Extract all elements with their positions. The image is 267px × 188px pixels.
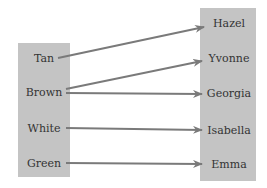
arrow-green-emma: [66, 163, 202, 164]
arrow-brown-yvonne: [66, 61, 202, 89]
range-item-hazel: Hazel: [213, 17, 245, 30]
arrow-brown-georgia: [66, 93, 202, 94]
arrow-tan-hazel: [58, 27, 204, 58]
range-item-isabella: Isabella: [207, 124, 251, 137]
range-item-georgia: Georgia: [207, 87, 251, 100]
range-item-emma: Emma: [211, 158, 246, 171]
range-item-yvonne: Yvonne: [209, 52, 250, 65]
arrow-white-isabella: [66, 128, 202, 130]
domain-item-green: Green: [27, 157, 61, 170]
domain-item-white: White: [28, 122, 61, 135]
domain-item-tan: Tan: [34, 52, 54, 65]
domain-item-brown: Brown: [26, 86, 62, 99]
